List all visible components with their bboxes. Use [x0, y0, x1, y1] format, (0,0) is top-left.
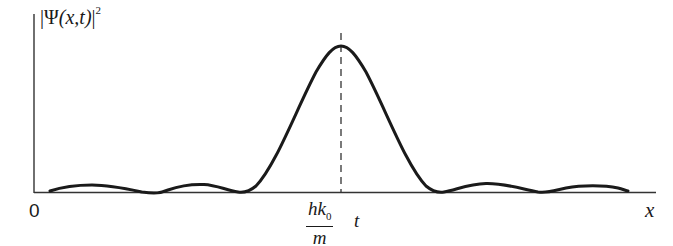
- probability-density-curve: [50, 46, 628, 193]
- plot-canvas: [0, 0, 673, 246]
- psi-symbol: Ψ: [44, 6, 59, 28]
- numerator-text: hk: [308, 198, 326, 219]
- peak-position-fraction: hk0 m: [306, 199, 333, 246]
- abs-bar-right: |: [92, 6, 96, 28]
- fraction-denominator: m: [306, 227, 333, 246]
- origin-label: 0: [29, 200, 40, 222]
- psi-arguments: (x,t): [59, 6, 92, 28]
- x-axis-label: x: [645, 198, 654, 223]
- fraction-numerator: hk0: [306, 199, 333, 227]
- wave-packet-figure: |Ψ(x,t)|2 0 x hk0 m t: [0, 0, 673, 246]
- numerator-subscript: 0: [326, 210, 332, 222]
- y-axis-label: |Ψ(x,t)|2: [40, 6, 101, 29]
- power-exponent: 2: [96, 4, 102, 16]
- time-variable: t: [354, 210, 359, 232]
